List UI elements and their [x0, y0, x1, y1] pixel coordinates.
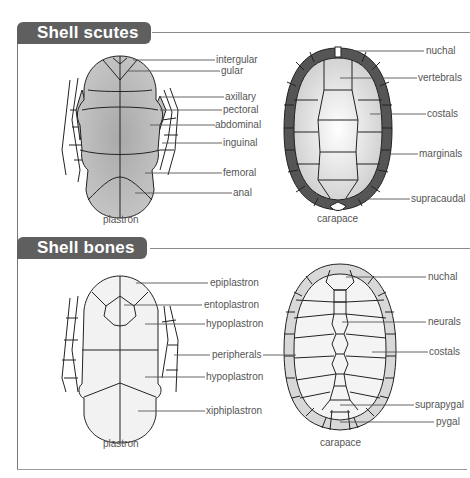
label-intergular: intergular [216, 54, 258, 65]
label-costals: costals [427, 108, 458, 119]
label-vertebrals: vertebrals [418, 72, 462, 83]
label-anal: anal [233, 187, 252, 198]
label-inguinal: inguinal [223, 137, 257, 148]
label-hypoplastron: hypoplastron [206, 371, 263, 382]
label-gular: gular [221, 65, 243, 76]
label-suprapygal: suprapygal [415, 399, 464, 410]
label-nuchal: nuchal [428, 271, 457, 282]
label-pygal: pygal [436, 416, 460, 427]
label-supracaudal: supracaudal [411, 193, 465, 204]
label-entoplastron: entoplastron [204, 299, 259, 310]
label-neurals: neurals [428, 316, 461, 327]
label-xiphiplastron: xiphiplastron [206, 405, 262, 416]
label-epiplastron: epiplastron [210, 277, 259, 288]
scutes-plastron-drawing [62, 56, 178, 218]
label-femoral: femoral [223, 167, 256, 178]
bones-plastron-drawing [62, 276, 178, 443]
label-pectoral: pectoral [223, 104, 259, 115]
label-hyoplastron: hypoplastron [206, 318, 263, 329]
caption-plastron: plastron [103, 214, 139, 225]
caption-carapace: carapace [317, 213, 358, 224]
scutes-carapace-drawing [284, 47, 392, 211]
label-nuchal: nuchal [426, 45, 455, 56]
label-costals: costals [429, 346, 460, 357]
label-peripherals: peripherals [212, 349, 261, 360]
label-abdominal: abdominal [215, 119, 261, 130]
label-marginals: marginals [419, 148, 462, 159]
caption-plastron: plastron [103, 438, 139, 449]
label-axillary: axillary [225, 91, 256, 102]
caption-carapace: carapace [320, 437, 361, 448]
